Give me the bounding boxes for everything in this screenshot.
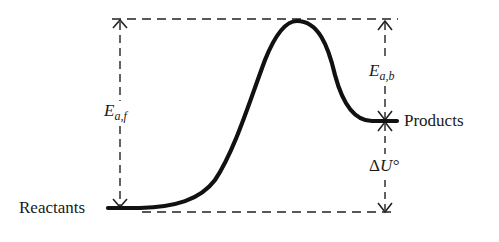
ea-backward-sub: a,b bbox=[379, 69, 394, 83]
energy-diagram: Reactants Products Ea,f Ea,b ΔU° bbox=[0, 0, 499, 242]
ea-forward-main: E bbox=[104, 101, 114, 120]
products-label: Products bbox=[404, 111, 464, 131]
ea-backward-main: E bbox=[369, 61, 379, 80]
reactants-label: Reactants bbox=[19, 198, 85, 218]
delta-symbol: Δ bbox=[369, 156, 380, 175]
energy-curve bbox=[108, 21, 397, 208]
ea-forward-label: Ea,f bbox=[104, 101, 127, 124]
delta-u-label: ΔU° bbox=[369, 156, 399, 176]
ea-forward-sub: a,f bbox=[114, 109, 126, 123]
delta-u-text: U° bbox=[380, 156, 399, 175]
ea-backward-label: Ea,b bbox=[369, 61, 394, 84]
